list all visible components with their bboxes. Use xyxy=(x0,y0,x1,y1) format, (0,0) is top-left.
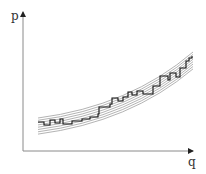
y-axis-label: p xyxy=(11,9,19,23)
supply-curve-diagram: p q xyxy=(0,0,206,174)
curve-band xyxy=(38,52,193,134)
x-axis-label: q xyxy=(188,155,196,169)
band-curve xyxy=(38,62,193,128)
